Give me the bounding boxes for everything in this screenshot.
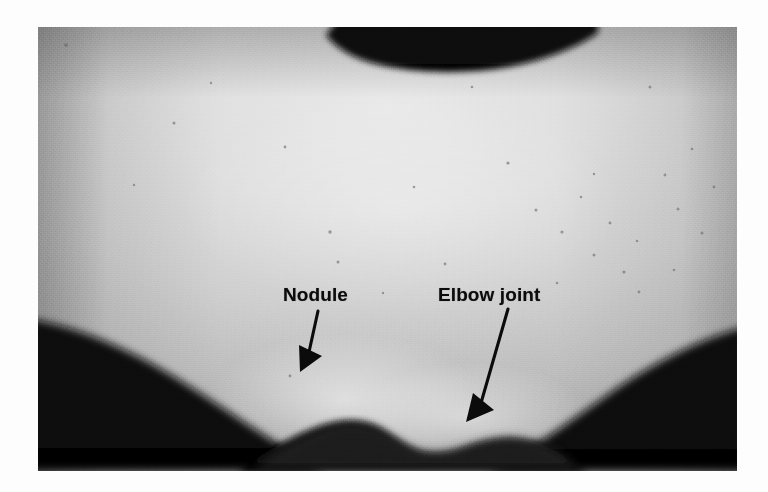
clinical-photograph bbox=[38, 27, 737, 471]
photo-page: Nodule Elbow joint bbox=[0, 0, 768, 492]
dark-background-silhouette bbox=[38, 27, 737, 471]
